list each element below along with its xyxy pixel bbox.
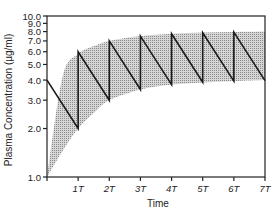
y-tick-label: 1.0 — [28, 172, 41, 183]
y-tick-label: 2.0 — [28, 123, 41, 134]
y-axis: 1.02.03.04.05.06.07.08.09.010.0 — [23, 11, 48, 183]
y-tick-label: 5.0 — [28, 59, 41, 70]
y-axis-title: Plasma Concentration (µg/ml) — [3, 34, 14, 166]
x-axis-title: Time — [147, 198, 169, 209]
y-tick-label: 4.0 — [28, 75, 41, 86]
x-tick-label: 2T — [103, 183, 116, 194]
x-tick-label: 6T — [228, 183, 240, 194]
plasma-concentration-chart: 1.02.03.04.05.06.07.08.09.010.0 1T2T3T4T… — [0, 0, 280, 217]
y-tick-label: 3.0 — [28, 95, 41, 106]
x-tick-label: 4T — [166, 183, 178, 194]
y-tick-label: 6.0 — [28, 46, 41, 57]
y-tick-label: 10.0 — [23, 11, 42, 22]
x-axis: 1T2T3T4T5T6T7T — [47, 177, 272, 194]
x-tick-label: 5T — [197, 183, 209, 194]
x-tick-label: 3T — [135, 183, 147, 194]
x-tick-label: 1T — [73, 183, 85, 194]
x-tick-label: 7T — [259, 183, 271, 194]
